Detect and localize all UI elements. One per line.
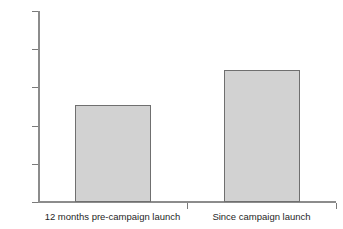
bar bbox=[224, 70, 300, 202]
x-axis-category-label: 12 months pre-campaign launch bbox=[38, 211, 187, 223]
x-axis-tick bbox=[187, 203, 188, 209]
bar bbox=[75, 105, 151, 202]
plot-area bbox=[38, 11, 336, 202]
y-axis-tick-label-wrap: 3400 bbox=[0, 126, 38, 127]
x-axis-tick bbox=[336, 203, 337, 209]
y-axis-tick-label-wrap: 3000 bbox=[0, 202, 38, 203]
y-axis-tick-label-wrap: 3600 bbox=[0, 87, 38, 88]
bar-chart: 300032003400360038004000 12 months pre-c… bbox=[0, 0, 343, 229]
y-axis-tick-label-wrap: 3800 bbox=[0, 49, 38, 50]
y-axis-tick-label-wrap: 3200 bbox=[0, 164, 38, 165]
y-axis-tick-label-wrap: 4000 bbox=[0, 11, 38, 12]
x-axis-category-label: Since campaign launch bbox=[187, 211, 336, 223]
